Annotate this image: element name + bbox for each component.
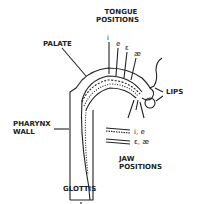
- tongue-positions-label: TONGUE POSITIONS: [96, 8, 139, 24]
- jaw-positions-label: JAW POSITIONS: [119, 155, 162, 171]
- vowel-i: i: [107, 34, 109, 42]
- vowel-ae: æ: [134, 50, 141, 58]
- jaw-legend-dotted-top: [106, 128, 130, 130]
- jaw-legend-double-1: [106, 139, 130, 141]
- glottis-label: GLOTTIS: [63, 185, 96, 193]
- jaw-legend-epsilon-ae: ε, æ: [134, 138, 149, 146]
- pointer-epsilon: [124, 52, 127, 78]
- vowel-epsilon: ε: [125, 44, 129, 52]
- palate-label: PALATE: [43, 40, 72, 48]
- jaw-label-line2: POSITIONS: [119, 163, 162, 171]
- lips-arrows: [155, 88, 163, 101]
- jaw-legend-i-e: i, e: [134, 128, 145, 136]
- pharynx-label-line2: WALL: [13, 128, 51, 136]
- vowel-e: e: [116, 40, 120, 48]
- vocal-tract-drawing: [0, 0, 198, 204]
- pointer-ae: [131, 58, 136, 80]
- tongue-e: [82, 80, 140, 102]
- pharynx-wall-label: PHARYNX WALL: [13, 120, 51, 136]
- lips-label: LIPS: [166, 88, 183, 96]
- palate-arrow: [62, 48, 86, 76]
- jaw-label-line1: JAW: [119, 155, 162, 163]
- pharynx-label-line1: PHARYNX: [13, 120, 51, 128]
- tongue-label-line2: POSITIONS: [96, 16, 139, 24]
- tongue-label-line1: TONGUE: [96, 8, 139, 16]
- pointer-e: [116, 48, 118, 76]
- jaw-legend-dotted: [106, 131, 130, 133]
- jaw-teeth: [128, 100, 144, 118]
- jaw-legend-double-2: [106, 142, 130, 144]
- tongue-ae: [86, 88, 136, 110]
- vocal-tract-diagram: TONGUE POSITIONS PALATE i e ε æ LIPS PHA…: [0, 0, 198, 204]
